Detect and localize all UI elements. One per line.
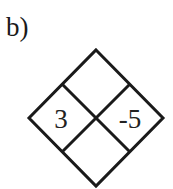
cell-left: 3 bbox=[54, 104, 68, 134]
cell-right: -5 bbox=[119, 104, 142, 134]
diamond-diagram: 3 -5 bbox=[0, 0, 173, 189]
